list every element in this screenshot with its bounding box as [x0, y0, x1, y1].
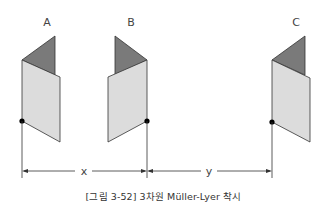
- figure-c: C: [269, 16, 310, 178]
- arrowhead-right-icon: [266, 169, 272, 173]
- dimension-label-x: x: [81, 165, 88, 178]
- label-b: B: [127, 16, 135, 29]
- label-c: C: [292, 16, 300, 29]
- figure-a: A: [19, 16, 60, 178]
- muller-lyer-diagram: A B C x y: [0, 0, 327, 215]
- arrowhead-right-icon: [141, 169, 147, 173]
- dimension-y: y: [147, 165, 272, 178]
- panel-b: [108, 60, 147, 142]
- figure-caption: [그림 3-52] 3차원 Müller-Lyer 착시: [0, 189, 327, 203]
- dimension-x: x: [22, 165, 147, 178]
- dimension-label-y: y: [206, 165, 213, 178]
- arrowhead-left-icon: [147, 169, 153, 173]
- label-a: A: [43, 16, 51, 29]
- figure-b: B: [108, 16, 150, 178]
- arrowhead-left-icon: [22, 169, 28, 173]
